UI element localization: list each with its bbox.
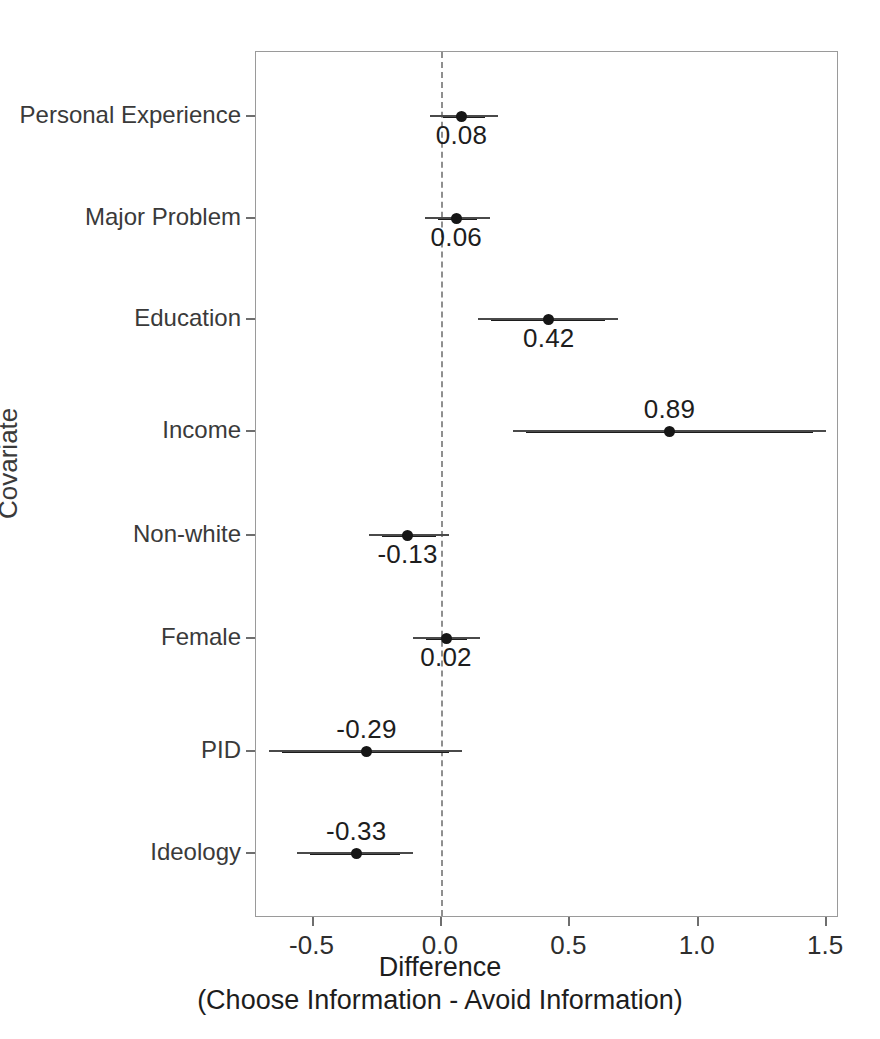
x-tick-mark	[568, 917, 570, 926]
y-tick-label-female: Female	[161, 623, 241, 651]
zero-reference-line	[441, 52, 443, 916]
estimate-point[interactable]	[351, 848, 362, 859]
y-tick-mark	[246, 637, 255, 639]
x-tick-mark	[825, 917, 827, 926]
x-axis-subtitle: (Choose Information - Avoid Information)	[0, 985, 880, 1016]
figure-root: Covariate 0.080.060.420.89-0.130.02-0.29…	[0, 0, 880, 1039]
y-axis-title: Covariate	[0, 408, 24, 519]
y-tick-mark	[246, 852, 255, 854]
estimate-value-label: -0.29	[336, 714, 396, 745]
y-tick-mark	[246, 534, 255, 536]
estimate-value-label: 0.06	[431, 222, 482, 253]
estimate-value-label: 0.42	[523, 323, 574, 354]
y-tick-label-ideology: Ideology	[150, 838, 241, 866]
x-tick-mark	[440, 917, 442, 926]
estimate-point[interactable]	[664, 426, 675, 437]
estimate-value-label: 0.89	[644, 394, 695, 425]
x-tick-mark	[312, 917, 314, 926]
plot-panel: 0.080.060.420.89-0.130.02-0.29-0.33	[255, 51, 838, 917]
x-tick-mark	[697, 917, 699, 926]
y-tick-mark	[246, 217, 255, 219]
y-tick-label-major-problem: Major Problem	[85, 203, 241, 231]
y-tick-label-non-white: Non-white	[133, 520, 241, 548]
y-tick-label-personal-experience: Personal Experience	[20, 101, 241, 129]
y-tick-label-income: Income	[162, 416, 241, 444]
estimate-value-label: -0.13	[377, 539, 437, 570]
estimate-value-label: -0.33	[326, 816, 386, 847]
y-tick-label-education: Education	[134, 304, 241, 332]
y-tick-mark	[246, 430, 255, 432]
y-tick-mark	[246, 318, 255, 320]
y-tick-label-pid: PID	[201, 736, 241, 764]
estimate-point[interactable]	[361, 746, 372, 757]
y-tick-mark	[246, 750, 255, 752]
y-tick-mark	[246, 115, 255, 117]
estimate-value-label: 0.02	[420, 642, 471, 673]
estimate-value-label: 0.08	[436, 120, 487, 151]
x-axis-title: Difference	[0, 952, 880, 983]
